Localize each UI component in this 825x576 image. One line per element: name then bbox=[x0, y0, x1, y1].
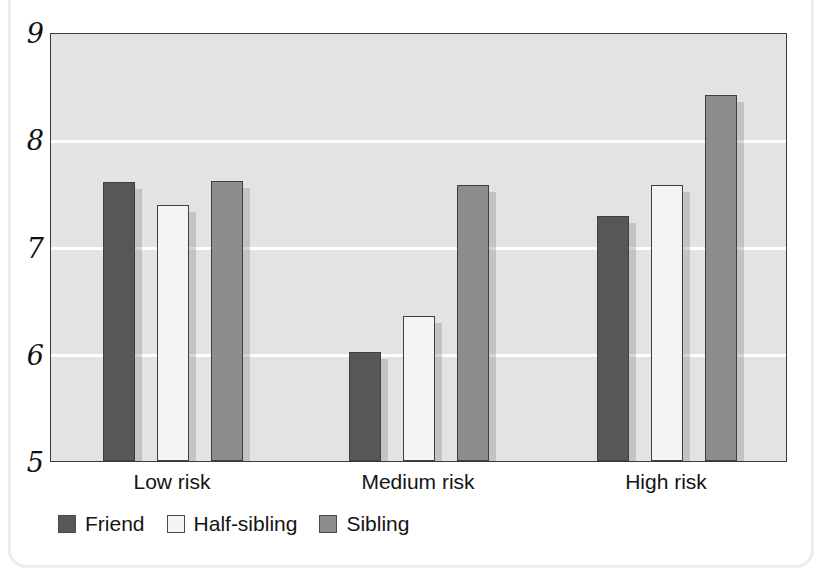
y-axis: 56789 bbox=[0, 0, 44, 576]
legend-swatch-icon bbox=[167, 515, 185, 533]
plot-area bbox=[50, 33, 787, 462]
x-axis-tick-label: High risk bbox=[625, 470, 707, 494]
legend-item[interactable]: Friend bbox=[58, 512, 145, 536]
bar[interactable] bbox=[103, 182, 135, 461]
bar[interactable] bbox=[403, 316, 435, 461]
bar[interactable] bbox=[211, 181, 243, 461]
y-axis-tick-label: 6 bbox=[4, 341, 44, 368]
bar[interactable] bbox=[705, 95, 737, 461]
y-axis-tick-label: 8 bbox=[4, 127, 44, 154]
bar[interactable] bbox=[349, 352, 381, 461]
legend-label: Half-sibling bbox=[194, 512, 298, 536]
legend-item[interactable]: Half-sibling bbox=[167, 512, 298, 536]
bar[interactable] bbox=[597, 216, 629, 461]
legend-swatch-icon bbox=[58, 515, 76, 533]
bar[interactable] bbox=[157, 205, 189, 461]
x-axis-tick-label: Medium risk bbox=[361, 470, 474, 494]
legend-label: Friend bbox=[85, 512, 145, 536]
y-axis-tick-label: 5 bbox=[4, 449, 44, 476]
legend-item[interactable]: Sibling bbox=[319, 512, 409, 536]
bar[interactable] bbox=[457, 185, 489, 461]
gridline bbox=[51, 140, 786, 143]
legend-label: Sibling bbox=[346, 512, 409, 536]
chart-legend: FriendHalf-siblingSibling bbox=[0, 512, 825, 536]
x-axis-tick-label: Low risk bbox=[133, 470, 210, 494]
bar-chart: 56789 Low riskMedium riskHigh risk Frien… bbox=[0, 0, 825, 576]
y-axis-tick-label: 7 bbox=[4, 234, 44, 261]
y-axis-tick-label: 9 bbox=[4, 20, 44, 47]
legend-swatch-icon bbox=[319, 515, 337, 533]
bar[interactable] bbox=[651, 185, 683, 461]
